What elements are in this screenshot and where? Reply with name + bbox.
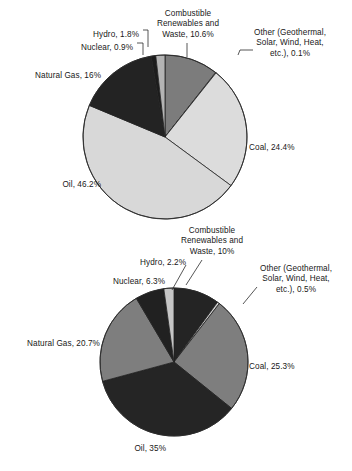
- pie-label-nuclear: Nuclear, 6.3%: [113, 277, 165, 287]
- pie-label-other: Other (Geothermal, Solar, Wind, Heat, et…: [236, 264, 352, 295]
- pie-label-coal: Coal, 25.3%: [249, 362, 295, 372]
- leader-line-nuclear: [137, 43, 143, 55]
- pie-label-other: Other (Geothermal, Solar, Wind, Heat, et…: [230, 28, 350, 59]
- pie-oecd-total-primary-energy-supply: [100, 288, 248, 436]
- leader-line-crw: [186, 260, 202, 285]
- pie-label-coal: Coal, 24.4%: [249, 143, 295, 153]
- pie-label-crw: Combustible Renewables and Waste, 10%: [152, 226, 272, 257]
- pie-label-hydro: Hydro, 1.8%: [93, 30, 139, 40]
- pie-label-hydro: Hydro, 2.2%: [140, 258, 186, 268]
- energy-supply-pie-figure: Combustible Renewables and Waste, 10.6%O…: [0, 0, 352, 471]
- leader-line-hydro: [172, 265, 186, 290]
- pie-label-gas: Natural Gas, 20.7%: [27, 339, 100, 349]
- pie-label-nuclear: Nuclear, 0.9%: [81, 43, 133, 53]
- pie-label-gas: Natural Gas, 16%: [35, 71, 101, 81]
- pie-label-oil: Oil, 46.2%: [62, 180, 101, 190]
- pie-world-total-primary-energy-supply: [83, 55, 247, 219]
- pie-label-oil: Oil, 35%: [134, 444, 166, 454]
